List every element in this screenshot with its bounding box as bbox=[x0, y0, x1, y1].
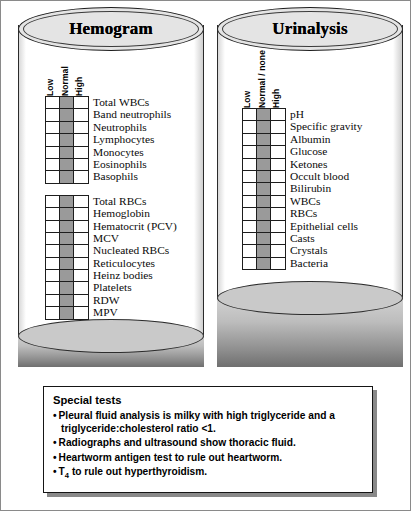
table-row[interactable]: Bilirubin bbox=[243, 183, 285, 195]
cell-low[interactable] bbox=[243, 208, 257, 219]
cell-low[interactable] bbox=[46, 147, 60, 158]
cell-low[interactable] bbox=[46, 221, 60, 232]
cell-normal-none[interactable] bbox=[257, 146, 272, 157]
cell-high[interactable] bbox=[74, 159, 88, 170]
cell-low[interactable] bbox=[46, 258, 60, 269]
cell-low[interactable] bbox=[243, 146, 257, 157]
table-row[interactable]: RDW bbox=[46, 295, 88, 307]
cell-high[interactable] bbox=[271, 121, 285, 132]
cell-low[interactable] bbox=[243, 134, 257, 145]
cell-high[interactable] bbox=[74, 307, 88, 318]
cell-low[interactable] bbox=[243, 258, 257, 269]
cell-normal[interactable] bbox=[60, 196, 75, 207]
cell-high[interactable] bbox=[74, 245, 88, 256]
cell-low[interactable] bbox=[243, 196, 257, 207]
table-row[interactable]: Nucleated RBCs bbox=[46, 245, 88, 257]
cell-low[interactable] bbox=[243, 109, 257, 120]
cell-high[interactable] bbox=[271, 146, 285, 157]
table-row[interactable]: Total RBCs bbox=[46, 196, 88, 208]
cell-high[interactable] bbox=[271, 134, 285, 145]
cell-high[interactable] bbox=[271, 258, 285, 269]
cell-high[interactable] bbox=[74, 122, 88, 133]
cell-low[interactable] bbox=[46, 307, 60, 318]
cell-high[interactable] bbox=[74, 295, 88, 306]
table-row[interactable]: Monocytes bbox=[46, 147, 88, 159]
cell-normal[interactable] bbox=[60, 295, 75, 306]
table-row[interactable]: Specific gravity bbox=[243, 121, 285, 133]
cell-normal[interactable] bbox=[60, 159, 75, 170]
cell-normal[interactable] bbox=[60, 282, 75, 293]
cell-low[interactable] bbox=[46, 159, 60, 170]
cell-low[interactable] bbox=[46, 109, 60, 120]
cell-high[interactable] bbox=[271, 183, 285, 194]
table-row[interactable]: Bacteria bbox=[243, 258, 285, 270]
table-row[interactable]: Occult blood bbox=[243, 171, 285, 183]
cell-normal[interactable] bbox=[60, 208, 75, 219]
cell-low[interactable] bbox=[243, 245, 257, 256]
cell-low[interactable] bbox=[46, 134, 60, 145]
table-row[interactable]: Total WBCs bbox=[46, 97, 88, 109]
cell-low[interactable] bbox=[243, 121, 257, 132]
table-row[interactable]: Hematocrit (PCV) bbox=[46, 221, 88, 233]
table-row[interactable]: Platelets bbox=[46, 282, 88, 294]
cell-high[interactable] bbox=[271, 196, 285, 207]
cell-high[interactable] bbox=[74, 258, 88, 269]
cell-normal[interactable] bbox=[60, 122, 75, 133]
cell-low[interactable] bbox=[46, 208, 60, 219]
cell-normal[interactable] bbox=[60, 245, 75, 256]
cell-high[interactable] bbox=[74, 208, 88, 219]
cell-normal[interactable] bbox=[60, 171, 75, 182]
table-row[interactable]: Glucose bbox=[243, 146, 285, 158]
table-row[interactable]: Lymphocytes bbox=[46, 134, 88, 146]
cell-normal[interactable] bbox=[60, 221, 75, 232]
cell-low[interactable] bbox=[243, 221, 257, 232]
cell-high[interactable] bbox=[271, 233, 285, 244]
cell-normal-none[interactable] bbox=[257, 134, 272, 145]
cell-normal[interactable] bbox=[60, 147, 75, 158]
cell-low[interactable] bbox=[46, 282, 60, 293]
cell-low[interactable] bbox=[46, 245, 60, 256]
table-row[interactable]: Casts bbox=[243, 233, 285, 245]
table-row[interactable]: Albumin bbox=[243, 134, 285, 146]
cell-high[interactable] bbox=[271, 171, 285, 182]
cell-high[interactable] bbox=[74, 270, 88, 281]
cell-high[interactable] bbox=[74, 221, 88, 232]
cell-normal-none[interactable] bbox=[257, 196, 272, 207]
cell-high[interactable] bbox=[74, 196, 88, 207]
cell-normal[interactable] bbox=[60, 307, 75, 318]
table-row[interactable]: Eosinophils bbox=[46, 159, 88, 171]
table-row[interactable]: Basophils bbox=[46, 171, 88, 183]
cell-low[interactable] bbox=[243, 159, 257, 170]
cell-normal-none[interactable] bbox=[257, 159, 272, 170]
cell-low[interactable] bbox=[46, 196, 60, 207]
cell-low[interactable] bbox=[46, 171, 60, 182]
cell-high[interactable] bbox=[74, 109, 88, 120]
cell-high[interactable] bbox=[271, 109, 285, 120]
cell-normal-none[interactable] bbox=[257, 171, 272, 182]
cell-low[interactable] bbox=[46, 97, 60, 108]
cell-normal[interactable] bbox=[60, 134, 75, 145]
cell-normal-none[interactable] bbox=[257, 258, 272, 269]
table-row[interactable]: RBCs bbox=[243, 208, 285, 220]
cell-high[interactable] bbox=[271, 245, 285, 256]
cell-normal-none[interactable] bbox=[257, 233, 272, 244]
table-row[interactable]: pH bbox=[243, 109, 285, 121]
cell-normal-none[interactable] bbox=[257, 221, 272, 232]
cell-normal[interactable] bbox=[60, 233, 75, 244]
cell-high[interactable] bbox=[74, 282, 88, 293]
cell-normal[interactable] bbox=[60, 258, 75, 269]
table-row[interactable]: Epithelial cells bbox=[243, 221, 285, 233]
cell-normal-none[interactable] bbox=[257, 245, 272, 256]
table-row[interactable]: MCV bbox=[46, 233, 88, 245]
cell-high[interactable] bbox=[74, 97, 88, 108]
cell-normal[interactable] bbox=[60, 270, 75, 281]
table-row[interactable]: WBCs bbox=[243, 196, 285, 208]
cell-normal[interactable] bbox=[60, 97, 75, 108]
cell-low[interactable] bbox=[243, 183, 257, 194]
cell-normal-none[interactable] bbox=[257, 121, 272, 132]
table-row[interactable]: Heinz bodies bbox=[46, 270, 88, 282]
table-row[interactable]: Hemoglobin bbox=[46, 208, 88, 220]
table-row[interactable]: Band neutrophils bbox=[46, 109, 88, 121]
cell-low[interactable] bbox=[243, 233, 257, 244]
cell-low[interactable] bbox=[46, 233, 60, 244]
